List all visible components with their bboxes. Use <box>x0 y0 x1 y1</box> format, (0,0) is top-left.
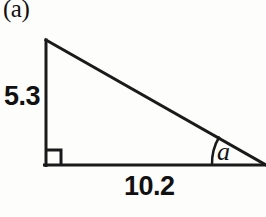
horizontal-side-label: 10.2 <box>124 173 175 200</box>
hypotenuse <box>46 40 266 165</box>
part-label: (a) <box>3 0 29 21</box>
right-angle-marker-icon <box>46 150 61 165</box>
triangle-figure: (a) 5.3 10.2 a <box>0 0 266 217</box>
angle-label: a <box>217 139 230 165</box>
vertical-side-label: 5.3 <box>4 83 40 110</box>
